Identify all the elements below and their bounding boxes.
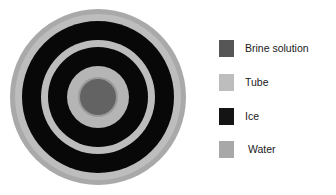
legend-swatch-brine-solution <box>219 40 234 57</box>
concentric-rings-svg <box>0 0 200 195</box>
legend-item-ice: Ice <box>219 105 259 127</box>
legend-item-water: Water <box>219 138 276 160</box>
legend-item-brine-solution: Brine solution <box>219 37 309 59</box>
legend-swatch-tube <box>219 74 234 91</box>
diagram-page: Brine solution Tube Ice Water <box>0 0 336 195</box>
legend-label-tube: Tube <box>245 76 269 88</box>
rings-group <box>10 9 186 185</box>
legend-label-water: Water <box>248 143 276 155</box>
legend-label-ice: Ice <box>245 110 259 122</box>
materials-legend: Brine solution Tube Ice Water <box>219 33 336 173</box>
legend-label-brine-solution: Brine solution <box>245 42 309 54</box>
legend-item-tube: Tube <box>219 71 269 93</box>
brine-core-circle <box>80 79 116 115</box>
cross-section-figure <box>0 0 200 195</box>
legend-swatch-ice <box>219 108 234 125</box>
legend-swatch-water <box>219 141 234 158</box>
